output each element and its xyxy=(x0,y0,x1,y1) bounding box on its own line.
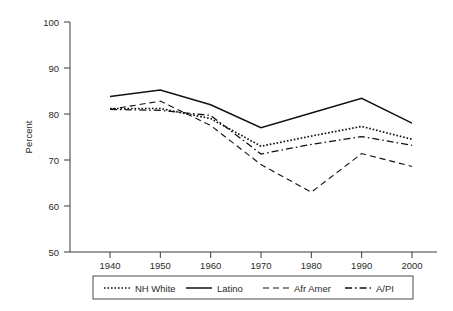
x-tick-label: 1980 xyxy=(301,260,322,271)
y-tick-label: 50 xyxy=(48,247,59,258)
legend-label-a-pi: A/PI xyxy=(376,283,394,294)
y-tick-label: 60 xyxy=(48,201,59,212)
line-chart: Percent 5060708090100 194019501960197019… xyxy=(0,0,453,311)
x-tick-label: 2000 xyxy=(401,260,422,271)
x-tick-label: 1970 xyxy=(250,260,271,271)
chart-figure: Percent 5060708090100 194019501960197019… xyxy=(0,0,453,311)
y-tick-label: 80 xyxy=(48,109,59,120)
x-tick-label: 1940 xyxy=(99,260,120,271)
y-tick-label: 100 xyxy=(43,17,59,28)
legend-label-latino: Latino xyxy=(217,283,243,294)
x-tick-label: 1960 xyxy=(200,260,221,271)
y-tick-label: 90 xyxy=(48,63,59,74)
x-tick-label: 1990 xyxy=(351,260,372,271)
y-tick-label: 70 xyxy=(48,155,59,166)
y-axis-title: Percent xyxy=(23,120,34,153)
legend-label-nh-white: NH White xyxy=(135,283,176,294)
legend-label-afr-amer: Afr Amer xyxy=(294,283,331,294)
x-tick-label: 1950 xyxy=(150,260,171,271)
chart-background xyxy=(0,0,453,311)
